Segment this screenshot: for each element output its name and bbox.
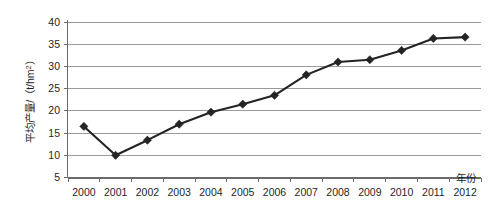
x-axis-tick-label: 2006 — [263, 186, 287, 198]
x-axis-tick-label: 2011 — [422, 186, 445, 198]
x-axis-tick-label: 2005 — [231, 186, 255, 198]
chart-canvas: 2000200120022003200420052006200720082009… — [0, 0, 503, 213]
x-axis-tick-label: 2000 — [72, 186, 96, 198]
x-axis-tick-label: 2008 — [326, 186, 350, 198]
y-axis-tick-label: 35 — [48, 38, 60, 50]
x-axis-tick-label: 2001 — [104, 186, 128, 198]
y-axis-tick-label: 10 — [48, 149, 60, 161]
y-axis-tick-label: 15 — [48, 127, 60, 139]
x-axis-tick-label: 2010 — [390, 186, 414, 198]
x-axis-tick-label: 2009 — [358, 186, 382, 198]
x-axis-tick-label: 2004 — [199, 186, 223, 198]
y-axis-tick-label: 30 — [48, 60, 60, 72]
y-axis-title-main: 平均产量/（t/hm — [24, 69, 36, 143]
x-axis-tick-label: 2012 — [453, 186, 477, 198]
x-axis-tick-label: 2003 — [168, 186, 192, 198]
x-axis-tick-label: 2007 — [295, 186, 319, 198]
y-axis-tick-label: 5 — [54, 171, 60, 183]
y-axis-tick-label: 25 — [48, 82, 60, 94]
y-axis-title-tail: ） — [24, 55, 36, 65]
x-axis-title: 年份 — [456, 172, 477, 184]
line-chart: 2000200120022003200420052006200720082009… — [0, 0, 503, 213]
x-axis-tick-label: 2002 — [136, 186, 160, 198]
chart-background — [0, 0, 503, 213]
y-axis-tick-label: 40 — [48, 16, 60, 28]
y-axis-tick-label: 20 — [48, 104, 60, 116]
